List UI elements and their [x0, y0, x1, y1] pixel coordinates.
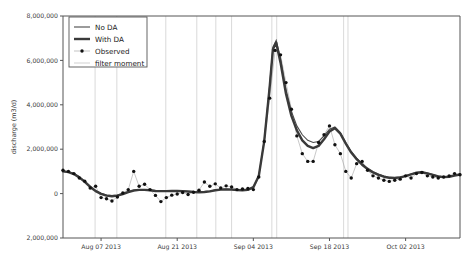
legend-label: Observed	[95, 47, 130, 56]
observed-data-point	[110, 199, 113, 202]
observed-data-point	[420, 171, 423, 174]
y-tick-label: 4,000,000	[27, 101, 59, 108]
x-tick-label: Aug 07 2013	[81, 243, 121, 251]
observed-data-point	[246, 187, 249, 190]
observed-data-point	[409, 176, 412, 179]
observed-data-point	[328, 124, 331, 127]
observed-data-point	[273, 49, 276, 52]
observed-data-point	[398, 177, 401, 180]
observed-data-point	[186, 193, 189, 196]
x-tick-label: Aug 21 2013	[157, 243, 197, 251]
observed-data-point	[61, 169, 64, 172]
observed-data-point	[94, 185, 97, 188]
y-tick-label: 2,000,000	[27, 145, 59, 152]
observed-data-point	[447, 174, 450, 177]
observed-data-point	[83, 179, 86, 182]
observed-data-point	[284, 81, 287, 84]
x-tick-label: Sep 18 2013	[310, 243, 349, 251]
observed-data-point	[99, 196, 102, 199]
x-axis-ticks: Aug 07 2013Aug 21 2013Sep 04 2013Sep 18 …	[81, 238, 425, 251]
legend-swatch-observed-dot	[80, 49, 83, 52]
observed-markers	[61, 49, 461, 204]
observed-data-point	[252, 188, 255, 191]
observed-data-point	[219, 186, 222, 189]
y-axis-ticks: 8,000,0006,000,0004,000,0002,000,00002,0…	[27, 12, 64, 241]
observed-data-point	[458, 173, 461, 176]
observed-data-point	[404, 174, 407, 177]
legend: No DAWith DAObservedfilter moment	[69, 17, 147, 68]
observed-data-point	[317, 141, 320, 144]
observed-data-point	[127, 188, 130, 191]
y-tick-label: 6,000,000	[27, 57, 59, 64]
observed-data-point	[360, 160, 363, 163]
observed-data-point	[78, 176, 81, 179]
legend-label: With DA	[95, 35, 124, 44]
observed-data-point	[437, 176, 440, 179]
observed-data-point	[350, 176, 353, 179]
observed-data-point	[333, 143, 336, 146]
legend-label: No DA	[95, 23, 117, 32]
observed-data-point	[426, 174, 429, 177]
x-tick-label: Oct 02 2013	[386, 243, 424, 250]
observed-data-point	[263, 140, 266, 143]
observed-data-point	[148, 188, 151, 191]
observed-data-point	[154, 194, 157, 197]
x-tick-label: Sep 04 2013	[234, 243, 273, 251]
y-axis-label: discharge (m3/d)	[10, 100, 18, 155]
observed-data-point	[224, 184, 227, 187]
observed-data-point	[88, 186, 91, 189]
observed-data-point	[203, 180, 206, 183]
observed-data-point	[132, 170, 135, 173]
observed-data-point	[170, 193, 173, 196]
observed-data-point	[181, 191, 184, 194]
observed-data-point	[388, 180, 391, 183]
observed-data-point	[301, 152, 304, 155]
chart-figure: 8,000,0006,000,0004,000,0002,000,00002,0…	[0, 0, 476, 263]
observed-data-point	[311, 160, 314, 163]
observed-data-point	[116, 195, 119, 198]
observed-data-point	[165, 196, 168, 199]
observed-data-point	[192, 191, 195, 194]
observed-data-point	[137, 185, 140, 188]
observed-data-point	[382, 179, 385, 182]
observed-data-point	[366, 169, 369, 172]
observed-data-point	[143, 183, 146, 186]
observed-data-point	[371, 174, 374, 177]
observed-data-point	[442, 175, 445, 178]
observed-data-point	[431, 175, 434, 178]
observed-data-point	[159, 200, 162, 203]
observed-data-point	[295, 134, 298, 137]
observed-data-point	[230, 185, 233, 188]
y-tick-label: 2,000,000	[27, 234, 59, 241]
observed-data-point	[121, 191, 124, 194]
observed-data-point	[257, 175, 260, 178]
observed-data-point	[176, 192, 179, 195]
legend-label: filter moment	[95, 59, 144, 68]
observed-data-point	[67, 170, 70, 173]
observed-data-point	[306, 160, 309, 163]
y-tick-label: 0	[54, 190, 58, 197]
observed-data-point	[339, 152, 342, 155]
observed-data-point	[72, 172, 75, 175]
discharge-time-series-chart: 8,000,0006,000,0004,000,0002,000,00002,0…	[0, 0, 476, 263]
observed-data-point	[105, 197, 108, 200]
observed-data-point	[235, 188, 238, 191]
observed-data-point	[415, 172, 418, 175]
observed-data-point	[377, 176, 380, 179]
y-tick-label: 8,000,000	[27, 12, 59, 19]
observed-data-point	[279, 53, 282, 56]
observed-data-point	[214, 182, 217, 185]
observed-data-point	[241, 187, 244, 190]
observed-data-point	[208, 185, 211, 188]
observed-data-point	[453, 172, 456, 175]
observed-data-point	[355, 162, 358, 165]
observed-data-point	[393, 179, 396, 182]
observed-data-point	[344, 170, 347, 173]
observed-data-point	[197, 189, 200, 192]
observed-data-point	[268, 96, 271, 99]
observed-data-point	[290, 108, 293, 111]
observed-data-point	[322, 133, 325, 136]
